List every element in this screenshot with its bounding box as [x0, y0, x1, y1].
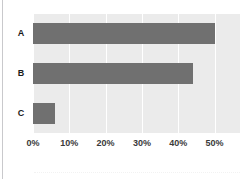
left-edge-rule: [2, 0, 3, 179]
bottom-dotted-rule: [34, 172, 240, 174]
x-tick-10pct: 10%: [49, 138, 89, 148]
bar-A: [33, 23, 215, 44]
gridline-50: [215, 14, 216, 133]
bar-B: [33, 63, 193, 84]
chart-figure: ABC 0%10%20%30%40%50%: [0, 0, 252, 179]
bar-C: [33, 103, 55, 124]
category-label-A: A: [12, 28, 30, 38]
plot-area: [33, 14, 240, 133]
x-tick-20pct: 20%: [86, 138, 126, 148]
x-tick-40pct: 40%: [158, 138, 198, 148]
x-tick-30pct: 30%: [122, 138, 162, 148]
category-label-B: B: [12, 68, 30, 78]
x-tick-0pct: 0%: [13, 138, 53, 148]
x-tick-50pct: 50%: [195, 138, 235, 148]
category-label-C: C: [12, 108, 30, 118]
watermark-text: [14, 1, 60, 10]
